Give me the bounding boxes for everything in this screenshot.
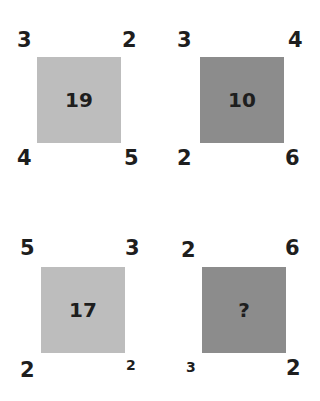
corner-br: 5 [124,148,139,169]
corner-tl: 2 [181,240,196,261]
corner-tr: 4 [288,30,303,51]
corner-bl: 2 [177,148,192,169]
center-value: 17 [69,298,97,322]
center-square: ? [202,267,286,353]
corner-tr: 6 [285,238,300,259]
corner-br: 2 [286,358,301,379]
corner-bl: 4 [17,148,32,169]
corner-br: 6 [285,148,300,169]
corner-tl: 3 [177,30,192,51]
corner-tl: 5 [20,238,35,259]
center-square: 17 [41,267,125,353]
center-value: 19 [65,88,93,112]
corner-bl: 3 [186,360,196,374]
corner-bl: 2 [20,360,35,381]
center-square: 10 [200,57,284,143]
center-value: 10 [228,88,256,112]
corner-tr: 2 [122,30,137,51]
corner-br: 2 [126,358,136,372]
center-square: 19 [37,57,121,143]
corner-tl: 3 [17,30,32,51]
corner-tr: 3 [125,238,140,259]
center-value: ? [238,298,250,322]
